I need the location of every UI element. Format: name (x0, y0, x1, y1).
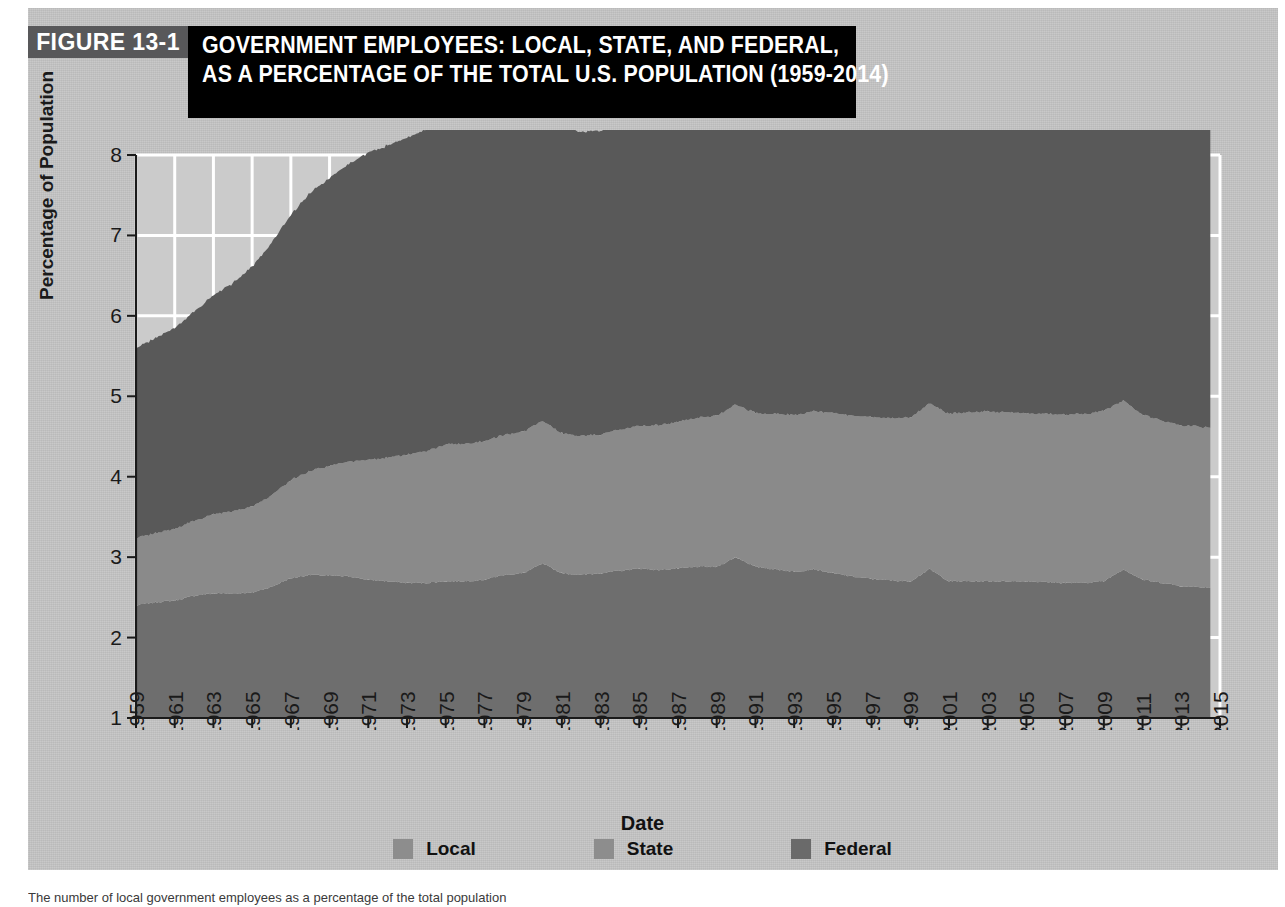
x-tick-label: 1973 (396, 691, 419, 730)
y-tick-label: 1 (110, 706, 122, 729)
legend-item-local: Local (393, 838, 476, 860)
chart-area: 1234567819591961196319651967196919711973… (28, 130, 1278, 730)
x-tick-label: 1963 (202, 691, 225, 730)
y-tick-label: 8 (110, 143, 122, 166)
stacked-area-chart: 1234567819591961196319651967196919711973… (28, 130, 1278, 730)
x-axis-title: Date (0, 812, 1285, 835)
legend-item-federal: Federal (791, 838, 892, 860)
x-tick-label: 2003 (977, 691, 1000, 730)
legend-label-local: Local (426, 838, 476, 860)
legend-swatch-state (594, 839, 614, 859)
x-tick-label: 1989 (706, 691, 729, 730)
legend-swatch-federal (791, 839, 811, 859)
y-tick-label: 3 (110, 545, 122, 568)
y-tick-label: 7 (110, 223, 122, 246)
x-tick-label: 1969 (319, 691, 342, 730)
legend-swatch-local (393, 839, 413, 859)
x-tick-label: 2011 (1132, 693, 1155, 730)
x-tick-label: 1965 (241, 691, 264, 730)
x-tick-label: 1967 (280, 691, 303, 730)
y-tick-label: 5 (110, 384, 122, 407)
figure-title-line-1: GOVERNMENT EMPLOYEES: LOCAL, STATE, AND … (202, 31, 801, 60)
x-tick-label: 1993 (783, 691, 806, 730)
y-tick-label: 4 (110, 465, 122, 488)
x-tick-label: 2001 (938, 691, 961, 730)
x-tick-label: 2013 (1170, 691, 1193, 730)
x-tick-label: 1961 (164, 691, 187, 730)
legend-label-federal: Federal (824, 838, 892, 860)
figure-number-label: FIGURE 13-1 (28, 26, 188, 58)
x-tick-label: 2007 (1054, 691, 1077, 730)
x-tick-label: 1999 (899, 691, 922, 730)
legend-item-state: State (594, 838, 673, 860)
x-tick-label: 1959 (125, 691, 148, 730)
x-tick-label: 2015 (1209, 691, 1232, 730)
figure-page: FIGURE 13-1 GOVERNMENT EMPLOYEES: LOCAL,… (0, 0, 1285, 907)
chart-legend: Local State Federal (0, 838, 1285, 860)
figure-caption: The number of local government employees… (28, 888, 1128, 907)
legend-label-state: State (627, 838, 673, 860)
x-tick-label: 1985 (628, 691, 651, 730)
x-tick-label: 1971 (357, 691, 380, 730)
figure-title-line-2: AS A PERCENTAGE OF THE TOTAL U.S. POPULA… (202, 60, 801, 89)
x-tick-label: 2005 (1015, 691, 1038, 730)
x-tick-label: 1979 (512, 691, 535, 730)
x-tick-label: 1977 (473, 691, 496, 730)
x-tick-label: 1983 (590, 691, 613, 730)
x-tick-label: 1995 (822, 691, 845, 730)
x-tick-label: 2009 (1093, 691, 1116, 730)
x-tick-label: 1997 (861, 691, 884, 730)
x-tick-label: 1975 (435, 691, 458, 730)
y-axis-title: Percentage of Population (36, 71, 58, 300)
x-tick-label: 1987 (667, 691, 690, 730)
y-tick-label: 6 (110, 304, 122, 327)
x-tick-label: 1991 (744, 691, 767, 730)
figure-title: GOVERNMENT EMPLOYEES: LOCAL, STATE, AND … (188, 26, 856, 118)
y-tick-label: 2 (110, 626, 122, 649)
x-tick-label: 1981 (551, 691, 574, 730)
